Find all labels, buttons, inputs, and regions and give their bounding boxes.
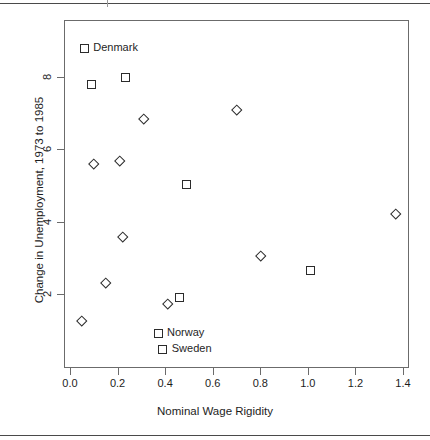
x-tick-label: 0.0 [50, 377, 90, 389]
x-tick-label: 1.2 [335, 377, 375, 389]
square-marker-icon [175, 293, 184, 302]
x-tick-mark [403, 368, 404, 375]
x-tick-mark [260, 368, 261, 375]
bottom-divider-rule [0, 435, 430, 436]
x-tick-label: 0.8 [240, 377, 280, 389]
square-marker-icon [306, 266, 315, 275]
square-marker-icon [158, 345, 167, 354]
y-tick-mark [57, 77, 64, 78]
plot-area [64, 20, 409, 368]
x-tick-label: 0.2 [98, 377, 138, 389]
x-tick-label: 1.4 [383, 377, 423, 389]
x-tick-mark [213, 368, 214, 375]
x-tick-label: 1.0 [288, 377, 328, 389]
x-tick-mark [308, 368, 309, 375]
x-tick-mark [355, 368, 356, 375]
square-marker-icon [182, 180, 191, 189]
scatter-plot-figure: 0.00.20.40.60.81.01.21.4 2468 DenmarkNor… [0, 0, 430, 440]
point-label: Sweden [172, 342, 212, 355]
x-axis-title: Nominal Wage Rigidity [0, 405, 430, 417]
point-label: Norway [167, 326, 204, 339]
x-tick-label: 0.4 [145, 377, 185, 389]
point-label: Denmark [93, 41, 138, 54]
top-rule-nick [107, 0, 108, 7]
y-tick-mark [57, 222, 64, 223]
top-divider-rule [0, 3, 430, 4]
square-marker-icon [87, 80, 96, 89]
square-marker-icon [154, 329, 163, 338]
y-tick-mark [57, 294, 64, 295]
y-tick-mark [57, 149, 64, 150]
x-tick-mark [70, 368, 71, 375]
y-axis-title: Change in Unemployment, 1973 to 1985 [33, 26, 45, 374]
x-tick-mark [165, 368, 166, 375]
square-marker-icon [80, 44, 89, 53]
x-tick-label: 0.6 [193, 377, 233, 389]
square-marker-icon [121, 73, 130, 82]
x-tick-mark [118, 368, 119, 375]
